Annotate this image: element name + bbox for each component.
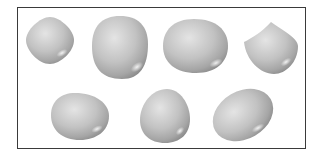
shape-egg-horizontal (51, 93, 109, 140)
shape-rounded-diamond (26, 17, 74, 64)
shape-pointed-heart (244, 22, 298, 74)
shapes-canvas (0, 0, 324, 155)
shape-wide-rounded-oval (163, 19, 228, 73)
shape-egg-upright (140, 89, 190, 143)
shape-tilted-oval (203, 78, 282, 152)
shape-large-rounded-square (92, 16, 148, 79)
